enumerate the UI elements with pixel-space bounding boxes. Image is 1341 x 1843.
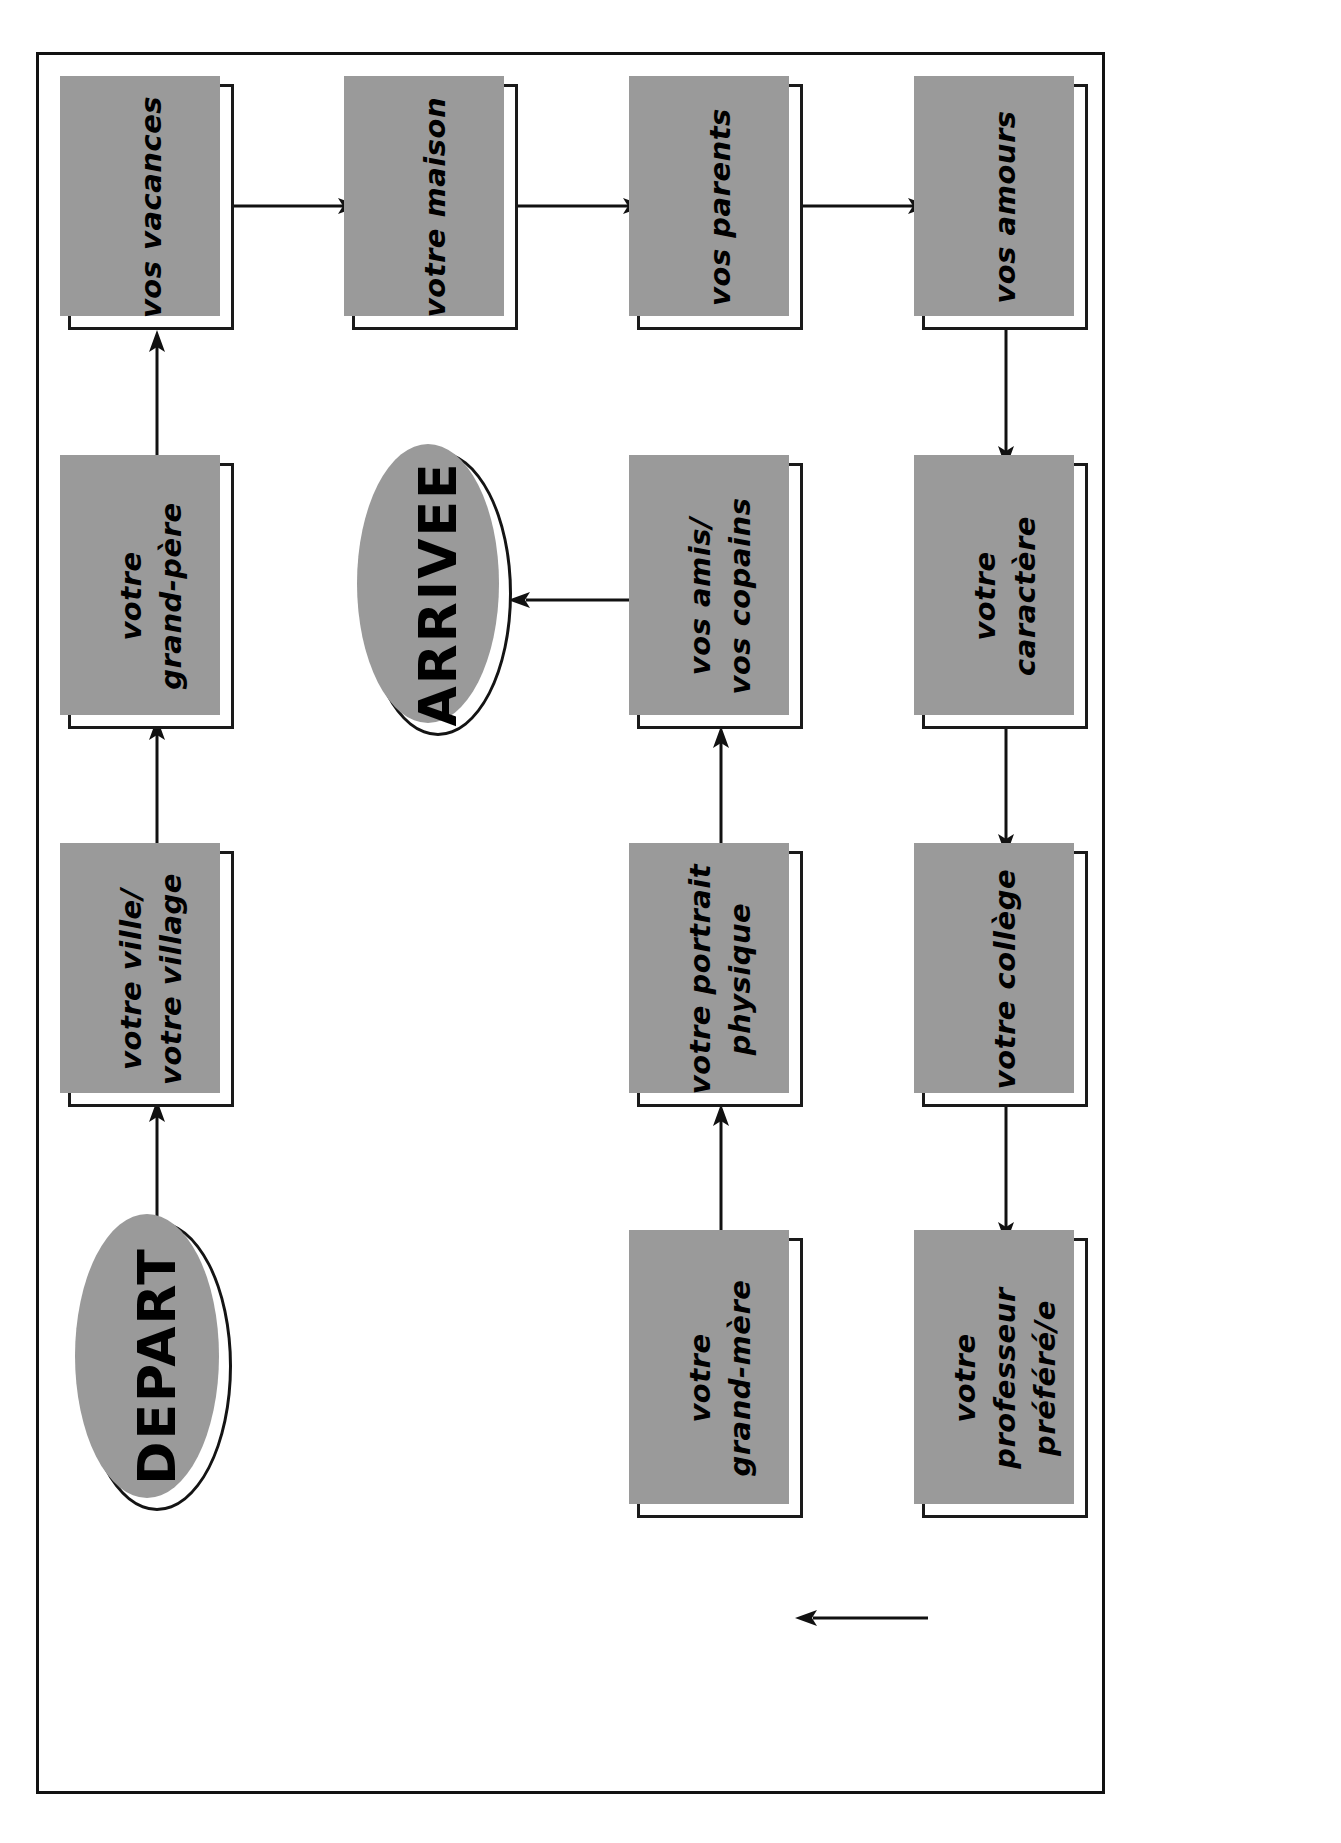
node-votre-portrait-physique[interactable]: votre portrait physique — [637, 851, 803, 1107]
edge-maison-to-parents — [514, 192, 645, 220]
edge-vacances-to-maison — [230, 192, 360, 220]
terminal-depart[interactable]: DEPART — [82, 1221, 232, 1511]
node-votre-professeur-prefere[interactable]: votre professeur préféré/e — [922, 1238, 1088, 1518]
edge-ville-to-grandpere — [142, 718, 172, 856]
node-votre-college[interactable]: votre collège — [922, 851, 1088, 1107]
edge-depart-to-ville — [142, 1100, 172, 1230]
node-label: votre collège — [985, 869, 1025, 1089]
node-label: vos amis/ vos copains — [680, 498, 760, 695]
edge-caractere-to-college — [991, 726, 1021, 856]
edge-amours-to-caractere — [991, 328, 1021, 468]
node-label: vos vacances — [131, 96, 171, 318]
node-votre-ville-votre-village[interactable]: votre ville/ votre village — [68, 851, 234, 1107]
node-vos-parents[interactable]: vos parents — [637, 84, 803, 330]
node-votre-caractere[interactable]: votre caractère — [922, 463, 1088, 729]
node-vos-amis-vos-copains[interactable]: vos amis/ vos copains — [637, 463, 803, 729]
terminal-arrivee[interactable]: ARRIVEE — [364, 451, 512, 736]
node-label: vos amours — [985, 110, 1025, 303]
node-label: votre grand-mère — [680, 1280, 760, 1477]
node-vos-amours[interactable]: vos amours — [922, 84, 1088, 330]
edge-parents-to-amours — [799, 192, 930, 220]
edge-professeur-to-grandmere — [795, 1604, 928, 1632]
terminal-label: DEPART — [127, 1247, 187, 1484]
node-label: votre grand-père — [111, 502, 191, 689]
node-label: votre professeur préféré/e — [945, 1287, 1065, 1468]
node-label: votre ville/ votre village — [111, 873, 191, 1085]
node-votre-maison[interactable]: votre maison — [352, 84, 518, 330]
node-votre-grand-mere[interactable]: votre grand-mère — [637, 1238, 803, 1518]
edge-grandmere-to-portrait — [706, 1104, 736, 1244]
edge-portrait-to-amis — [706, 726, 736, 856]
node-label: votre caractère — [965, 516, 1045, 676]
terminal-label: ARRIVEE — [408, 461, 468, 726]
node-label: votre maison — [415, 97, 455, 317]
edge-amis-to-arrivee — [508, 586, 642, 614]
edge-grandpere-to-vacances — [142, 330, 172, 468]
edge-college-to-professeur — [991, 1104, 1021, 1244]
node-label: votre portrait physique — [680, 864, 760, 1094]
node-label: vos parents — [700, 108, 740, 306]
diagram-page: vos vacances votre maison vos parents vo… — [0, 0, 1341, 1843]
node-votre-grand-pere[interactable]: votre grand-père — [68, 463, 234, 729]
node-vos-vacances[interactable]: vos vacances — [68, 84, 234, 330]
